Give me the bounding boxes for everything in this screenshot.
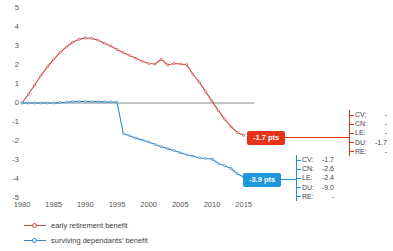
breakdown-value: - — [370, 147, 387, 156]
y-tick-label: 0 — [1, 99, 19, 107]
data-point — [59, 102, 61, 104]
data-point — [46, 66, 48, 68]
breakdown-value: -2.4 — [317, 173, 334, 182]
breakdown-row: CN:- — [355, 119, 387, 128]
data-point — [167, 148, 169, 150]
data-point — [40, 74, 42, 76]
bracket-tick — [297, 160, 301, 161]
data-point — [110, 101, 112, 103]
breakdown-row: LE:- — [355, 128, 387, 137]
data-point — [40, 102, 42, 104]
data-point — [198, 157, 200, 159]
y-axis: 543210-1-2-3-4-5 — [0, 8, 19, 198]
y-tick-label: 2 — [1, 61, 19, 69]
legend-item-label: early retirement benefit — [51, 221, 128, 230]
breakdown-value: -1.7 — [370, 138, 387, 147]
data-point — [148, 141, 150, 143]
data-point — [154, 143, 156, 145]
series-line-1 — [22, 101, 244, 177]
breakdown-key: CV: — [355, 110, 370, 119]
data-point — [167, 64, 169, 66]
x-tick-label: 1980 — [14, 200, 31, 209]
breakdown-key: CN: — [355, 119, 370, 128]
breakdown-row: RE:- — [302, 192, 334, 201]
breakdown-value: - — [370, 128, 387, 137]
data-point — [135, 137, 137, 139]
x-tick-label: 2005 — [172, 200, 189, 209]
data-point — [103, 101, 105, 103]
bracket-tick — [350, 115, 354, 116]
breakdown-row: CV:-1.7 — [302, 155, 334, 164]
y-tick-label: -3 — [1, 156, 19, 164]
data-point — [211, 158, 213, 160]
data-point — [53, 102, 55, 104]
data-point — [211, 100, 213, 102]
data-point — [205, 91, 207, 93]
data-point — [217, 110, 219, 112]
chart-container: 543210-1-2-3-4-5 19801985199019952000200… — [0, 0, 393, 251]
data-point — [78, 38, 80, 40]
breakdown-table-red: CV:-CN:-LE:-DU:-1.7RE:- — [349, 110, 387, 156]
data-point — [27, 93, 29, 95]
data-point — [34, 84, 36, 86]
data-point — [103, 42, 105, 44]
breakdown-key: LE: — [302, 173, 317, 182]
bracket-tick — [350, 124, 354, 125]
breakdown-key: DU: — [355, 138, 370, 147]
data-point — [192, 73, 194, 75]
x-axis: 19801985199019952000200520102015 — [22, 200, 254, 212]
breakdown-row: RE:- — [355, 147, 387, 156]
data-point — [179, 152, 181, 154]
data-point — [243, 134, 245, 136]
y-tick-label: 4 — [1, 23, 19, 31]
data-point — [230, 126, 232, 128]
callout-badge-red[interactable]: -1.7 pts — [247, 131, 285, 145]
data-point — [236, 131, 238, 133]
data-point — [198, 81, 200, 83]
data-point — [186, 154, 188, 156]
bracket-tick — [297, 196, 301, 197]
legend-item[interactable]: early retirement benefit — [24, 218, 264, 233]
x-tick-label: 1990 — [77, 200, 94, 209]
data-point — [27, 102, 29, 104]
data-point — [59, 52, 61, 54]
data-point — [230, 168, 232, 170]
breakdown-value: -2.6 — [317, 164, 334, 173]
data-point — [148, 62, 150, 64]
breakdown-key: RE: — [355, 147, 370, 156]
breakdown-value: -9.0 — [317, 183, 334, 192]
breakdown-value: -1.7 — [317, 155, 334, 164]
y-tick-label: 3 — [1, 42, 19, 50]
data-point — [160, 146, 162, 148]
legend-item-label: surviving dependants' benefit — [51, 236, 148, 245]
breakdown-value: - — [317, 192, 334, 201]
bracket-tick — [297, 187, 301, 188]
data-point — [72, 101, 74, 103]
data-point — [173, 149, 175, 151]
data-point — [141, 60, 143, 62]
data-point — [84, 37, 86, 39]
data-point — [141, 139, 143, 141]
data-point — [97, 101, 99, 103]
data-point — [84, 100, 86, 102]
data-point — [224, 118, 226, 120]
data-point — [224, 165, 226, 167]
series-layer — [22, 8, 250, 198]
series-line-0 — [22, 38, 244, 135]
data-point — [72, 41, 74, 43]
legend-item[interactable]: surviving dependants' benefit — [24, 233, 264, 248]
data-point — [21, 102, 23, 104]
connector-line-blue — [280, 179, 297, 180]
bracket-tick — [350, 151, 354, 152]
callout-badge-blue[interactable]: -3.9 pts — [243, 173, 281, 187]
data-point — [186, 64, 188, 66]
breakdown-row: LE:-2.4 — [302, 173, 334, 182]
x-tick-label: 2000 — [140, 200, 157, 209]
breakdown-row: CN:-2.6 — [302, 164, 334, 173]
breakdown-key: RE: — [302, 192, 317, 201]
breakdown-key: DU: — [302, 183, 317, 192]
breakdown-row: DU:-1.7 — [355, 138, 387, 147]
breakdown-value: - — [370, 119, 387, 128]
legend-marker-icon — [24, 236, 46, 245]
breakdown-value: - — [370, 110, 387, 119]
